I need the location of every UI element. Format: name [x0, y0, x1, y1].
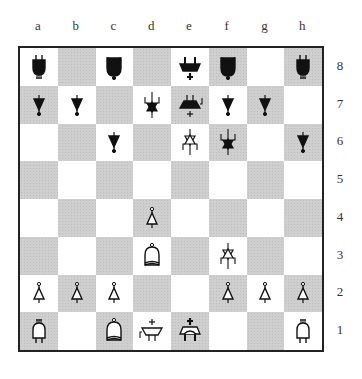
square-d3[interactable]	[133, 237, 171, 275]
square-c4[interactable]	[96, 199, 134, 237]
square-d7[interactable]	[133, 86, 171, 124]
black-rook-icon[interactable]	[288, 52, 318, 82]
black-rook-icon[interactable]	[24, 52, 54, 82]
white-pawn-icon[interactable]	[24, 278, 54, 308]
rank-label: 4	[330, 198, 350, 236]
square-f4[interactable]	[209, 199, 247, 237]
square-f6[interactable]	[209, 124, 247, 162]
square-g1[interactable]	[247, 312, 285, 350]
white-pawn-icon[interactable]	[250, 278, 280, 308]
square-g7[interactable]	[247, 86, 285, 124]
square-h8[interactable]	[284, 48, 322, 86]
square-g5[interactable]	[247, 161, 285, 199]
black-pawn-icon[interactable]	[288, 127, 318, 157]
file-label: e	[170, 18, 208, 38]
square-c3[interactable]	[96, 237, 134, 275]
square-f2[interactable]	[209, 275, 247, 313]
square-b2[interactable]	[58, 275, 96, 313]
white-pawn-icon[interactable]	[288, 278, 318, 308]
square-a5[interactable]	[20, 161, 58, 199]
square-g8[interactable]	[247, 48, 285, 86]
square-f1[interactable]	[209, 312, 247, 350]
square-d5[interactable]	[133, 161, 171, 199]
square-h1[interactable]	[284, 312, 322, 350]
square-b5[interactable]	[58, 161, 96, 199]
square-b1[interactable]	[58, 312, 96, 350]
white-knight-icon[interactable]	[213, 241, 243, 271]
black-bishop-icon[interactable]	[213, 52, 243, 82]
black-queen-icon[interactable]	[175, 90, 205, 120]
black-knight-icon[interactable]	[213, 127, 243, 157]
square-b3[interactable]	[58, 237, 96, 275]
white-knight-icon[interactable]	[175, 127, 205, 157]
square-d6[interactable]	[133, 124, 171, 162]
black-knight-icon[interactable]	[137, 90, 167, 120]
black-pawn-icon[interactable]	[24, 90, 54, 120]
square-g3[interactable]	[247, 237, 285, 275]
white-bishop-icon[interactable]	[137, 241, 167, 271]
square-h7[interactable]	[284, 86, 322, 124]
white-king-icon[interactable]	[175, 316, 205, 346]
square-c2[interactable]	[96, 275, 134, 313]
square-g4[interactable]	[247, 199, 285, 237]
file-label: h	[283, 18, 321, 38]
file-label: b	[57, 18, 95, 38]
square-f7[interactable]	[209, 86, 247, 124]
square-c7[interactable]	[96, 86, 134, 124]
square-e7[interactable]	[171, 86, 209, 124]
white-bishop-icon[interactable]	[99, 316, 129, 346]
square-e3[interactable]	[171, 237, 209, 275]
square-e1[interactable]	[171, 312, 209, 350]
white-pawn-icon[interactable]	[137, 203, 167, 233]
square-c5[interactable]	[96, 161, 134, 199]
square-a6[interactable]	[20, 124, 58, 162]
square-b8[interactable]	[58, 48, 96, 86]
square-a1[interactable]	[20, 312, 58, 350]
square-e5[interactable]	[171, 161, 209, 199]
square-b6[interactable]	[58, 124, 96, 162]
square-e2[interactable]	[171, 275, 209, 313]
rank-label: 6	[330, 123, 350, 161]
white-pawn-icon[interactable]	[213, 278, 243, 308]
square-f8[interactable]	[209, 48, 247, 86]
white-queen-icon[interactable]	[137, 316, 167, 346]
chess-board[interactable]	[18, 46, 324, 352]
square-c6[interactable]	[96, 124, 134, 162]
square-h5[interactable]	[284, 161, 322, 199]
white-rook-icon[interactable]	[288, 316, 318, 346]
square-d1[interactable]	[133, 312, 171, 350]
square-e8[interactable]	[171, 48, 209, 86]
white-rook-icon[interactable]	[24, 316, 54, 346]
black-king-icon[interactable]	[175, 52, 205, 82]
black-pawn-icon[interactable]	[213, 90, 243, 120]
white-pawn-icon[interactable]	[99, 278, 129, 308]
square-h2[interactable]	[284, 275, 322, 313]
square-g2[interactable]	[247, 275, 285, 313]
black-pawn-icon[interactable]	[250, 90, 280, 120]
square-c1[interactable]	[96, 312, 134, 350]
square-d2[interactable]	[133, 275, 171, 313]
square-a2[interactable]	[20, 275, 58, 313]
rank-label: 1	[330, 311, 350, 349]
square-d4[interactable]	[133, 199, 171, 237]
square-f3[interactable]	[209, 237, 247, 275]
square-b7[interactable]	[58, 86, 96, 124]
square-a3[interactable]	[20, 237, 58, 275]
black-bishop-icon[interactable]	[99, 52, 129, 82]
square-a4[interactable]	[20, 199, 58, 237]
square-b4[interactable]	[58, 199, 96, 237]
square-c8[interactable]	[96, 48, 134, 86]
black-pawn-icon[interactable]	[99, 127, 129, 157]
square-a8[interactable]	[20, 48, 58, 86]
square-f5[interactable]	[209, 161, 247, 199]
black-pawn-icon[interactable]	[62, 90, 92, 120]
white-pawn-icon[interactable]	[62, 278, 92, 308]
square-a7[interactable]	[20, 86, 58, 124]
square-e4[interactable]	[171, 199, 209, 237]
square-h3[interactable]	[284, 237, 322, 275]
square-h6[interactable]	[284, 124, 322, 162]
square-h4[interactable]	[284, 199, 322, 237]
square-d8[interactable]	[133, 48, 171, 86]
square-g6[interactable]	[247, 124, 285, 162]
square-e6[interactable]	[171, 124, 209, 162]
